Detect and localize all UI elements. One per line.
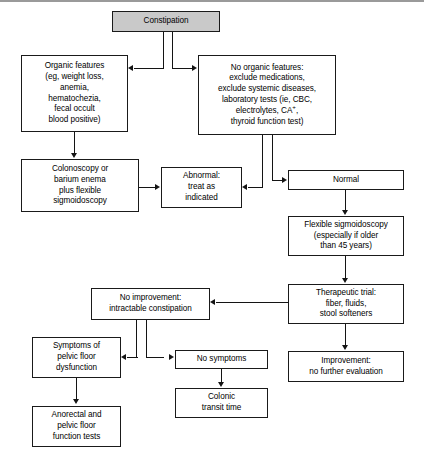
arrowhead-no-symptoms-to-colonic-transit <box>218 382 224 387</box>
node-anorectal-tests[interactable]: Anorectal and pelvic floor function test… <box>32 406 121 447</box>
connector-no-organic-to-abnormal-horizontal <box>248 187 263 188</box>
top-rule-divider <box>0 0 424 2</box>
connector-no-improvement-to-no-symptoms <box>146 357 164 358</box>
node-improvement-label: Improvement: no further evaluation <box>309 356 383 378</box>
node-no-organic-features-line5: electrolytes, CA+, <box>236 106 298 117</box>
node-no-organic-features-line3: exclude systemic diseases, <box>218 84 316 95</box>
connector-symptoms-to-anorectal <box>76 378 77 400</box>
node-therapeutic-trial-label: Therapeutic trial: fiber, fluids, stool … <box>316 288 376 320</box>
connector-therapeutic-to-no-improvement <box>216 302 289 303</box>
node-normal[interactable]: Normal <box>288 170 404 190</box>
node-no-improvement[interactable]: No improvement: intractable constipation <box>91 288 210 320</box>
arrowhead-therapeutic-to-improvement <box>342 345 348 350</box>
connector-constipation-to-organic-horizontal <box>134 68 164 69</box>
node-no-organic-features-line2: exclude medications, <box>229 73 304 84</box>
node-normal-label: Normal <box>333 175 359 186</box>
arrowhead-to-colonoscopy <box>71 153 77 158</box>
node-flexible-sigmoidoscopy-label: Flexible sigmoidoscopy (especially if ol… <box>304 220 388 252</box>
node-anorectal-tests-label: Anorectal and pelvic floor function test… <box>52 410 102 442</box>
electrolytes-comma: , <box>296 106 298 115</box>
arrowhead-flexible-sigmoidoscopy-to-therapeutic <box>342 278 348 283</box>
connector-organic-to-colonoscopy <box>74 132 75 154</box>
arrowhead-normal-to-flexible-sigmoidoscopy <box>342 210 348 215</box>
node-colonoscopy-label: Colonoscopy or barium enema plus flexibl… <box>52 164 108 207</box>
flowchart-canvas: Constipation Organic features (eg, weigh… <box>0 0 424 465</box>
node-colonoscopy[interactable]: Colonoscopy or barium enema plus flexibl… <box>21 159 139 212</box>
node-improvement[interactable]: Improvement: no further evaluation <box>288 351 404 382</box>
connector-no-organic-stem-left <box>262 135 263 188</box>
connector-no-improvement-stem-left <box>136 320 137 358</box>
node-no-organic-features-line4: laboratory tests (ie, CBC, <box>222 95 312 106</box>
arrowhead-no-improvement-to-no-symptoms <box>169 354 174 360</box>
arrowhead-to-no-organic-features <box>192 65 197 71</box>
arrowhead-no-organic-to-normal <box>282 177 287 183</box>
node-colonic-transit[interactable]: Colonic transit time <box>175 388 268 418</box>
node-organic-features-label: Organic features (eg, weight loss, anemi… <box>45 61 105 126</box>
arrowhead-symptoms-to-anorectal <box>73 399 79 404</box>
node-symptoms-pelvic-floor-label: Symptoms of pelvic floor dysfunction <box>53 341 100 373</box>
arrowhead-colonoscopy-to-abnormal <box>155 184 160 190</box>
node-therapeutic-trial[interactable]: Therapeutic trial: fiber, fluids, stool … <box>288 284 404 324</box>
arrowhead-no-organic-to-abnormal <box>242 184 247 190</box>
node-no-organic-features-line6: thyroid function test) <box>231 117 304 128</box>
node-abnormal[interactable]: Abnormal: treat as indicated <box>161 167 242 208</box>
node-no-improvement-label: No improvement: intractable constipation <box>109 293 192 315</box>
node-constipation[interactable]: Constipation <box>112 11 220 32</box>
arrowhead-no-improvement-to-symptoms <box>121 354 126 360</box>
connector-flexible-sigmoidoscopy-to-therapeutic <box>345 256 346 279</box>
node-colonic-transit-label: Colonic transit time <box>202 392 241 414</box>
node-no-organic-features-line1: No organic features: <box>231 63 304 74</box>
arrowhead-therapeutic-to-no-improvement <box>210 299 215 305</box>
node-flexible-sigmoidoscopy[interactable]: Flexible sigmoidoscopy (especially if ol… <box>288 216 404 256</box>
arrowhead-to-organic-features <box>128 65 133 71</box>
connector-constipation-stem-left <box>163 32 164 69</box>
node-constipation-label: Constipation <box>144 16 189 27</box>
node-organic-features[interactable]: Organic features (eg, weight loss, anemi… <box>21 55 128 132</box>
connector-no-improvement-to-symptoms <box>127 357 138 358</box>
connector-no-symptoms-to-colonic-transit <box>221 369 222 383</box>
node-abnormal-label: Abnormal: treat as indicated <box>183 171 220 203</box>
connector-constipation-stem-right <box>172 32 173 69</box>
connector-colonoscopy-to-abnormal <box>139 187 156 188</box>
node-symptoms-pelvic-floor[interactable]: Symptoms of pelvic floor dysfunction <box>32 337 121 378</box>
connector-therapeutic-to-improvement <box>345 324 346 346</box>
connector-normal-to-flexible-sigmoidoscopy <box>345 190 346 211</box>
node-no-symptoms-label: No symptoms <box>197 354 247 365</box>
node-no-symptoms[interactable]: No symptoms <box>175 350 268 369</box>
connector-no-organic-stem-right <box>272 135 273 180</box>
connector-constipation-to-no-organic-horizontal <box>172 68 193 69</box>
node-no-organic-features[interactable]: No organic features: exclude medications… <box>198 55 336 135</box>
electrolytes-text: electrolytes, CA <box>236 106 293 115</box>
connector-no-improvement-stem-right <box>146 320 147 358</box>
